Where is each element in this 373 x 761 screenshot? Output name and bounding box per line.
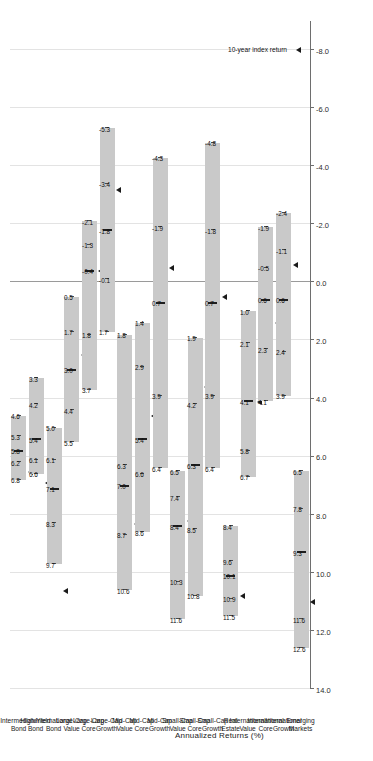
data-value-label: 1.4 [135, 320, 144, 327]
axis-tick-label: -2.0 [316, 221, 329, 230]
index-return-marker [222, 294, 227, 300]
data-value-label: 8.4 [170, 524, 179, 531]
data-value-label: -4.3 [152, 155, 163, 162]
box-plot-box [170, 471, 185, 619]
data-value-label: 5.4 [135, 437, 144, 444]
axis-tick-label: 6.0 [316, 453, 326, 462]
axis-tick-label: 0.0 [316, 279, 326, 288]
legend-marker-icon [296, 47, 301, 53]
axis-tick-label: 12.0 [316, 628, 331, 637]
data-value-label: -0.1 [99, 277, 110, 284]
data-value-label: 6.6 [135, 471, 144, 478]
data-value-label: -2.1 [82, 219, 93, 226]
box-plot-chart: 14.012.010.08.06.04.02.00.0-2.0-4.0-6.0-… [0, 0, 373, 761]
data-value-label: 2.3 [258, 347, 267, 354]
data-value-label: 11.5 [223, 614, 235, 621]
index-return-marker [116, 187, 121, 193]
data-value-label: 10.8 [187, 593, 199, 600]
axis-tick-label: -4.0 [316, 163, 329, 172]
box-plot-box [47, 428, 62, 565]
data-value-label: -1.9 [152, 225, 163, 232]
box-plot-box [276, 213, 291, 396]
data-value-label: 2.4 [276, 350, 285, 357]
data-value-label: 8.3 [46, 521, 55, 528]
data-value-label: 5.4 [29, 437, 38, 444]
data-value-label: 6.1 [29, 457, 38, 464]
data-value-label: 6.4 [152, 466, 161, 473]
data-value-label: 10.1 [223, 573, 235, 580]
box-plot-box [135, 323, 150, 532]
data-value-label: 3.7 [82, 387, 91, 394]
data-value-label: -1.8 [205, 228, 216, 235]
data-value-label: 1.9 [187, 335, 196, 342]
data-value-label: -4.8 [205, 140, 216, 147]
data-value-label: 2.9 [135, 364, 144, 371]
data-value-label: 5.3 [11, 434, 20, 441]
axis-tick-label: 10.0 [316, 570, 331, 579]
data-value-label: 4.6 [11, 413, 20, 420]
axis-tick-mark [310, 398, 314, 399]
data-value-label: 9.6 [223, 559, 232, 566]
axis-tick-mark [310, 339, 314, 340]
data-value-label: 4.1 [258, 399, 267, 406]
data-value-label: 8.7 [117, 532, 126, 539]
data-value-label: 11.6 [293, 617, 305, 624]
data-value-label: 3.3 [29, 376, 38, 383]
data-value-label: 5.8 [240, 448, 249, 455]
gridline [10, 688, 310, 689]
legend-label: 10-year index return [228, 46, 287, 53]
gridline [10, 630, 310, 631]
data-value-label: 11.6 [170, 617, 182, 624]
category-label: EmergingMarkets [273, 717, 329, 732]
axis-tick-mark [310, 514, 314, 515]
data-value-label: -1.3 [82, 242, 93, 249]
data-value-label: 0.7 [152, 300, 161, 307]
data-value-label: -3.4 [99, 181, 110, 188]
data-value-label: 10.9 [223, 596, 235, 603]
data-value-label: -1.1 [276, 248, 287, 255]
data-value-label: 8.5 [187, 527, 196, 534]
value-axis-title: Annualized Returns (%) [175, 731, 264, 740]
data-value-label: 1.8 [82, 332, 91, 339]
axis-tick-label: 2.0 [316, 337, 326, 346]
data-value-label: 9.7 [46, 562, 55, 569]
axis-tick-label: -8.0 [316, 47, 329, 56]
data-value-label: 0.6 [258, 297, 267, 304]
axis-tick-mark [310, 49, 314, 50]
data-value-label: 6.4 [205, 466, 214, 473]
data-value-label: 12.6 [293, 646, 305, 653]
data-value-label: 3.9 [152, 393, 161, 400]
data-value-label: -0.5 [258, 265, 269, 272]
data-value-label: 1.8 [117, 332, 126, 339]
data-value-label: 1.0 [240, 309, 249, 316]
data-value-label: 9.3 [293, 550, 302, 557]
data-value-label: 7.8 [293, 506, 302, 513]
index-return-marker [63, 588, 68, 594]
axis-tick-mark [310, 572, 314, 573]
data-value-label: 7.4 [170, 495, 179, 502]
data-value-label: -5.3 [99, 126, 110, 133]
data-value-label: 4.2 [187, 402, 196, 409]
data-value-label: 6.3 [117, 463, 126, 470]
axis-tick-label: 8.0 [316, 512, 326, 521]
axis-tick-label: 14.0 [316, 686, 331, 695]
index-return-marker [240, 593, 245, 599]
data-value-label: 6.6 [29, 471, 38, 478]
axis-tick-label: 4.0 [316, 395, 326, 404]
data-value-label: 0.5 [64, 294, 73, 301]
data-value-label: 4.2 [29, 402, 38, 409]
data-value-label: 6.3 [187, 463, 196, 470]
data-value-label: 1.7 [99, 329, 108, 336]
data-value-label: -0.4 [82, 268, 93, 275]
data-value-label: 6.1 [46, 457, 55, 464]
data-value-label: 10.3 [170, 579, 182, 586]
axis-tick-mark [310, 281, 314, 282]
data-value-label: 7.1 [46, 486, 55, 493]
axis-tick-mark [310, 456, 314, 457]
value-axis-line [310, 21, 311, 689]
box-plot-box [258, 227, 273, 401]
data-value-label: 4.4 [64, 408, 73, 415]
index-return-marker [310, 599, 315, 605]
axis-tick-mark [310, 223, 314, 224]
data-value-label: 8.4 [223, 524, 232, 531]
